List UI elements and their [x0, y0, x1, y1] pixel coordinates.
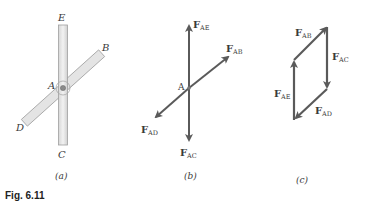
label-c-FAC: FAC — [332, 51, 349, 64]
label-A: A — [47, 80, 55, 91]
figure-caption: Fig. 6.11 — [5, 190, 45, 201]
label-D: D — [15, 122, 24, 133]
label-B: B — [101, 42, 109, 53]
label-A-b: A — [177, 82, 185, 92]
label-c-FAD: FAD — [315, 105, 332, 118]
panel-c: FAB FAC FAE FAD (c) — [274, 27, 349, 185]
label-FAE: FAE — [193, 19, 210, 32]
arrow-FAB — [189, 57, 228, 88]
figure-canvas: E B A D C (a) A FAE FAB FAD FAC (b) — [0, 0, 372, 205]
sublabel-b: (b) — [184, 171, 197, 181]
pin-A — [60, 85, 65, 90]
label-c-FAE: FAE — [274, 88, 291, 101]
label-c-FAB: FAB — [295, 27, 312, 40]
panel-b: A FAE FAB FAD FAC (b) — [141, 19, 243, 181]
arrow-FAD — [156, 88, 189, 117]
label-FAC: FAC — [180, 147, 197, 160]
point-A — [187, 86, 191, 90]
label-FAD: FAD — [141, 124, 158, 137]
member-EC — [59, 25, 68, 145]
sublabel-c: (c) — [296, 175, 309, 185]
label-FAB: FAB — [226, 43, 243, 56]
label-E: E — [57, 12, 66, 23]
panel-a: E B A D C (a) — [15, 12, 109, 181]
sublabel-a: (a) — [55, 171, 68, 181]
label-C: C — [58, 149, 66, 160]
